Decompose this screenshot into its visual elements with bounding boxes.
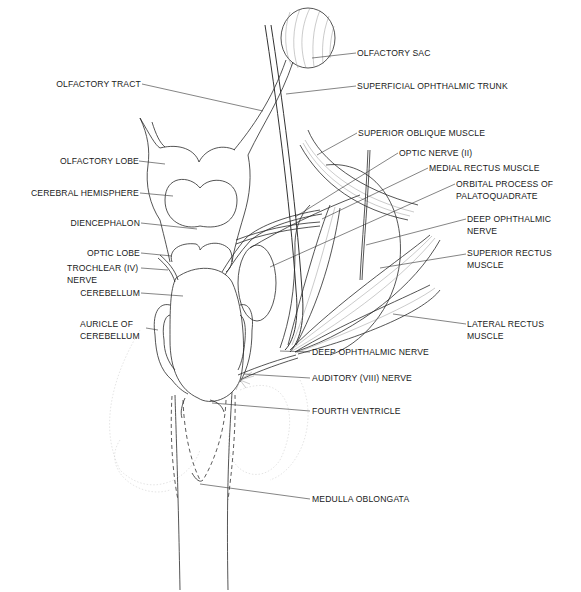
label-superior-rectus-muscle: SUPERIOR RECTUS MUSCLE bbox=[467, 247, 552, 271]
label-orbital-process-line1: ORBITAL PROCESS OF bbox=[456, 178, 553, 190]
label-deep-ophthalmic-nerve-upper: DEEP OPHTHALMIC NERVE bbox=[467, 213, 551, 237]
label-lateral-rectus-line1: LATERAL RECTUS bbox=[467, 318, 544, 330]
label-diencephalon: DIENCEPHALON bbox=[70, 217, 140, 229]
label-deep-ophthalmic-nerve-lower: DEEP OPHTHALMIC NERVE bbox=[312, 346, 429, 358]
label-superior-rectus-line2: MUSCLE bbox=[467, 259, 552, 271]
label-optic-nerve: OPTIC NERVE (II) bbox=[399, 147, 472, 159]
label-optic-lobe: OPTIC LOBE bbox=[87, 247, 140, 259]
label-olfactory-tract: OLFACTORY TRACT bbox=[56, 78, 141, 90]
label-trochlear-nerve-line2: NERVE bbox=[67, 274, 138, 286]
ghost-outline bbox=[110, 330, 308, 492]
label-trochlear-nerve: TROCHLEAR (IV) NERVE bbox=[67, 262, 138, 286]
label-auditory-nerve: AUDITORY (VIII) NERVE bbox=[312, 372, 412, 384]
leader-lines bbox=[139, 53, 466, 499]
label-superficial-ophthalmic-trunk: SUPERFICIAL OPHTHALMIC TRUNK bbox=[357, 80, 508, 92]
superficial-ophthalmic-trunk-drawing bbox=[265, 25, 303, 352]
label-fourth-ventricle: FOURTH VENTRICLE bbox=[312, 405, 401, 417]
label-olfactory-lobe: OLFACTORY LOBE bbox=[60, 155, 139, 167]
label-orbital-process-line2: PALATOQUADRATE bbox=[456, 190, 553, 202]
label-auricle-line1: AURICLE OF bbox=[80, 318, 140, 330]
label-medulla-oblongata: MEDULLA OBLONGATA bbox=[312, 493, 409, 505]
label-medial-rectus-muscle: MEDIAL RECTUS MUSCLE bbox=[429, 162, 540, 174]
label-deep-ophthalmic-line1: DEEP OPHTHALMIC bbox=[467, 213, 551, 225]
label-auricle-line2: CEREBELLUM bbox=[80, 330, 140, 342]
label-superior-rectus-line1: SUPERIOR RECTUS bbox=[467, 247, 552, 259]
label-auricle-of-cerebellum: AURICLE OF CEREBELLUM bbox=[80, 318, 140, 342]
label-deep-ophthalmic-line2: NERVE bbox=[467, 225, 551, 237]
label-cerebellum: CEREBELLUM bbox=[80, 287, 140, 299]
brain-outline bbox=[140, 60, 322, 590]
label-orbital-process: ORBITAL PROCESS OF PALATOQUADRATE bbox=[456, 178, 553, 202]
label-trochlear-nerve-line1: TROCHLEAR (IV) bbox=[67, 262, 138, 274]
label-olfactory-sac: OLFACTORY SAC bbox=[357, 47, 431, 59]
olfactory-sac-drawing bbox=[281, 8, 335, 68]
label-lateral-rectus-line2: MUSCLE bbox=[467, 330, 544, 342]
label-cerebral-hemisphere: CEREBRAL HEMISPHERE bbox=[31, 187, 139, 199]
label-superior-oblique-muscle: SUPERIOR OBLIQUE MUSCLE bbox=[358, 127, 485, 139]
label-lateral-rectus-muscle: LATERAL RECTUS MUSCLE bbox=[467, 318, 544, 342]
